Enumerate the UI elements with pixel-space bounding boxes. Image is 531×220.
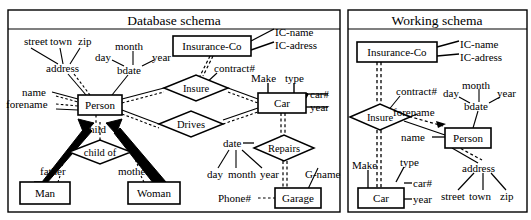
edge-ic-name [251,29,274,41]
relationship-label-repairs: Repairs [268,143,300,154]
er-diagram-figure: Database schema Working schema [0,0,531,220]
edge-year-date [242,150,262,168]
attribute-ws-street: street [441,190,465,202]
attribute-ws-car-number: car# [413,177,432,189]
edge-bdate-person [112,75,128,95]
attribute-phone: Phone# [218,192,252,204]
attribute-repair-year: year [260,168,279,180]
attribute-ws-car-year: year [413,193,432,205]
edge-ws-ic-name [437,41,459,47]
attribute-address: address [46,62,79,74]
attribute-car-year: year [310,101,329,113]
edge-person-drives-dashed [122,114,159,128]
edges-insurance-co-attrs [251,29,274,50]
edge-forename-person [56,109,78,110]
edge-person-drives [122,110,159,124]
attribute-ws-contract: contract# [396,85,437,97]
attribute-ws-address: address [462,162,495,174]
attribute-ws-make: Make [352,159,377,171]
edge-ic-adress [251,42,274,50]
attribute-ws-zip: zip [500,190,514,202]
entity-label-woman: Woman [137,187,171,199]
edge-name-person [52,92,78,99]
attribute-ws-month: month [462,79,491,91]
attribute-ws-ic-name: IC-name [460,38,499,50]
attribute-child: child [84,123,106,135]
edge-forename-person-dashed [56,104,78,106]
attribute-day: day [95,51,111,63]
entity-label-insurance-co: Insurance-Co [182,40,242,52]
attribute-ws-name: name [401,131,425,143]
relationship-label-ws-insure: Insure [367,112,394,123]
entity-insurance-co[interactable]: Insurance-Co [173,36,251,56]
attribute-zip: zip [78,35,92,47]
relationship-repairs[interactable]: Repairs [254,135,314,161]
edge-ws-person-address [452,148,478,163]
entity-label-garage: Garage [282,192,314,204]
edge-address-person [68,74,86,95]
attribute-type: type [285,72,304,84]
attribute-ws-town: town [469,190,492,202]
attribute-car-number: car# [310,88,329,100]
attribute-make: Make [251,72,276,84]
entity-label-person: Person [85,99,115,111]
attribute-date: date [223,137,241,149]
attribute-ws-type: type [400,156,419,168]
database-schema-content: Insurance-Co Person Car Man Woman Garage [6,26,341,208]
attribute-ws-year: year [497,87,516,99]
attribute-ws-bdate: bdate [464,100,488,112]
attribute-town: town [50,35,73,47]
entity-ws-person[interactable]: Person [445,128,491,148]
relationship-drives[interactable]: Drives [159,111,223,137]
attribute-street: street [24,35,48,47]
attribute-contract: contract# [214,62,255,74]
relationship-label-insure: Insure [183,83,210,94]
attribute-g-name: G-name [305,168,341,180]
entity-man[interactable]: Man [20,182,70,204]
relationship-label-child-of: child of [84,147,117,158]
entity-label-ws-person: Person [453,132,483,144]
attribute-ic-adress: IC-adress [275,39,317,51]
edge-day-date [218,150,229,168]
working-schema-content: Insurance-Co Person Car Insure IC-name I… [350,38,516,208]
entity-label-ws-car: Car [373,192,389,204]
entity-ws-insurance-co[interactable]: Insurance-Co [357,42,437,62]
entity-car[interactable]: Car [258,93,306,113]
edge-ws-insure-car [377,130,381,188]
entity-label-car: Car [274,97,290,109]
attribute-ws-day: day [443,87,459,99]
edge-ws-address-zip [491,173,506,190]
attribute-forename: forename [6,98,48,110]
attribute-name: name [22,86,46,98]
edge-ws-type-car [396,167,404,182]
edge-ws-insurance-co-insure [377,62,381,104]
edges-repairs [218,113,318,198]
attribute-repair-day: day [207,168,223,180]
attribute-bdate: bdate [117,64,141,76]
attribute-mother: mother [118,165,149,177]
edge-insurance-co-insure [200,56,213,76]
entity-label-ws-insurance-co: Insurance-Co [367,46,427,58]
entity-ws-car[interactable]: Car [358,188,404,208]
arrowhead-ws-forename-person [436,121,446,128]
relationship-insure[interactable]: Insure [164,75,228,101]
entity-garage[interactable]: Garage [275,188,321,208]
relationship-label-drives: Drives [177,119,205,130]
attribute-year: year [152,51,171,63]
attribute-father: father [40,165,66,177]
edge-ws-ic-adress [437,54,459,56]
relationships-database-schema: Insure Drives child of Repairs [69,75,314,164]
attribute-ic-name: IC-name [275,26,314,38]
edge-name-person-dashed [56,96,78,102]
attribute-repair-month: month [228,168,257,180]
entity-label-man: Man [35,187,56,199]
edges-person-name [52,92,78,110]
edge-ws-address-street [458,173,474,190]
edges-ws-insurance-co-attrs [437,41,459,56]
panel-title-working-schema: Working schema [392,13,483,28]
attribute-month: month [115,40,144,52]
attribute-ws-forename: forename [393,106,435,118]
entity-person[interactable]: Person [78,95,122,115]
er-diagram-canvas: Database schema Working schema [0,0,531,220]
entity-woman[interactable]: Woman [128,182,180,204]
